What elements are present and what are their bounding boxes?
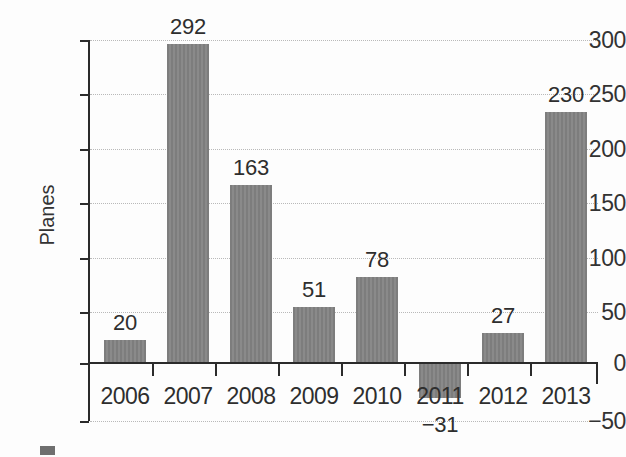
bar-value-label-2007: 292 [158, 16, 218, 38]
bar-value-label-2013: 230 [536, 84, 596, 106]
bar-value-label-2006: 20 [95, 312, 155, 334]
x-tick-boundary-4 [341, 363, 343, 376]
bar-2013[interactable] [545, 112, 587, 362]
y-tick-200 [80, 149, 89, 151]
bar-2007[interactable] [167, 44, 209, 362]
y-tick-150 [80, 203, 89, 205]
bar-value-label-2011: −31 [410, 414, 470, 436]
chart-figure: 300 250 200 150 100 50 0 −50 Planes 20 2… [0, 0, 626, 457]
x-category-label-2008: 2008 [221, 385, 281, 408]
x-tick-boundary-2 [215, 363, 217, 376]
x-category-label-2011: 2011 [410, 385, 470, 408]
x-category-label-2009: 2009 [284, 385, 344, 408]
x-category-label-2006: 2006 [95, 385, 155, 408]
x-tick-boundary-7 [530, 363, 532, 376]
x-axis-spine [88, 362, 598, 364]
bar-value-label-2012: 27 [473, 305, 533, 327]
bar-2008[interactable] [230, 185, 272, 362]
bar-2010[interactable] [356, 277, 398, 362]
bar-2009[interactable] [293, 307, 335, 362]
bar-value-label-2008: 163 [221, 157, 281, 179]
y-axis-title: Planes [37, 155, 57, 275]
x-tick-boundary-1 [152, 363, 154, 376]
y-tick-label-300: 300 [552, 29, 626, 52]
x-category-label-2012: 2012 [473, 385, 533, 408]
bar-2012[interactable] [482, 333, 524, 362]
gridline-minus-50 [90, 421, 598, 422]
x-tick-boundary-6 [467, 363, 469, 376]
y-tick-100 [80, 258, 89, 260]
x-tick-boundary-5 [404, 363, 406, 376]
bar-value-label-2010: 78 [347, 249, 407, 271]
x-category-label-2010: 2010 [347, 385, 407, 408]
figure-caption [40, 446, 600, 457]
y-tick-minus-50 [80, 421, 89, 423]
y-tick-300 [80, 40, 89, 42]
x-axis-end-tick [596, 363, 598, 384]
y-tick-50 [80, 312, 89, 314]
bar-2006[interactable] [104, 340, 146, 362]
x-category-label-2013: 2013 [536, 385, 596, 408]
x-category-label-2007: 2007 [158, 385, 218, 408]
gridline-300 [90, 40, 598, 41]
bar-value-label-2009: 51 [284, 279, 344, 301]
caption-marker [40, 446, 55, 455]
bar-chart-plot-area: 300 250 200 150 100 50 0 −50 Planes 20 2… [0, 0, 626, 457]
y-tick-label-minus-50: −50 [552, 410, 626, 433]
y-tick-250 [80, 94, 89, 96]
x-tick-boundary-3 [278, 363, 280, 376]
